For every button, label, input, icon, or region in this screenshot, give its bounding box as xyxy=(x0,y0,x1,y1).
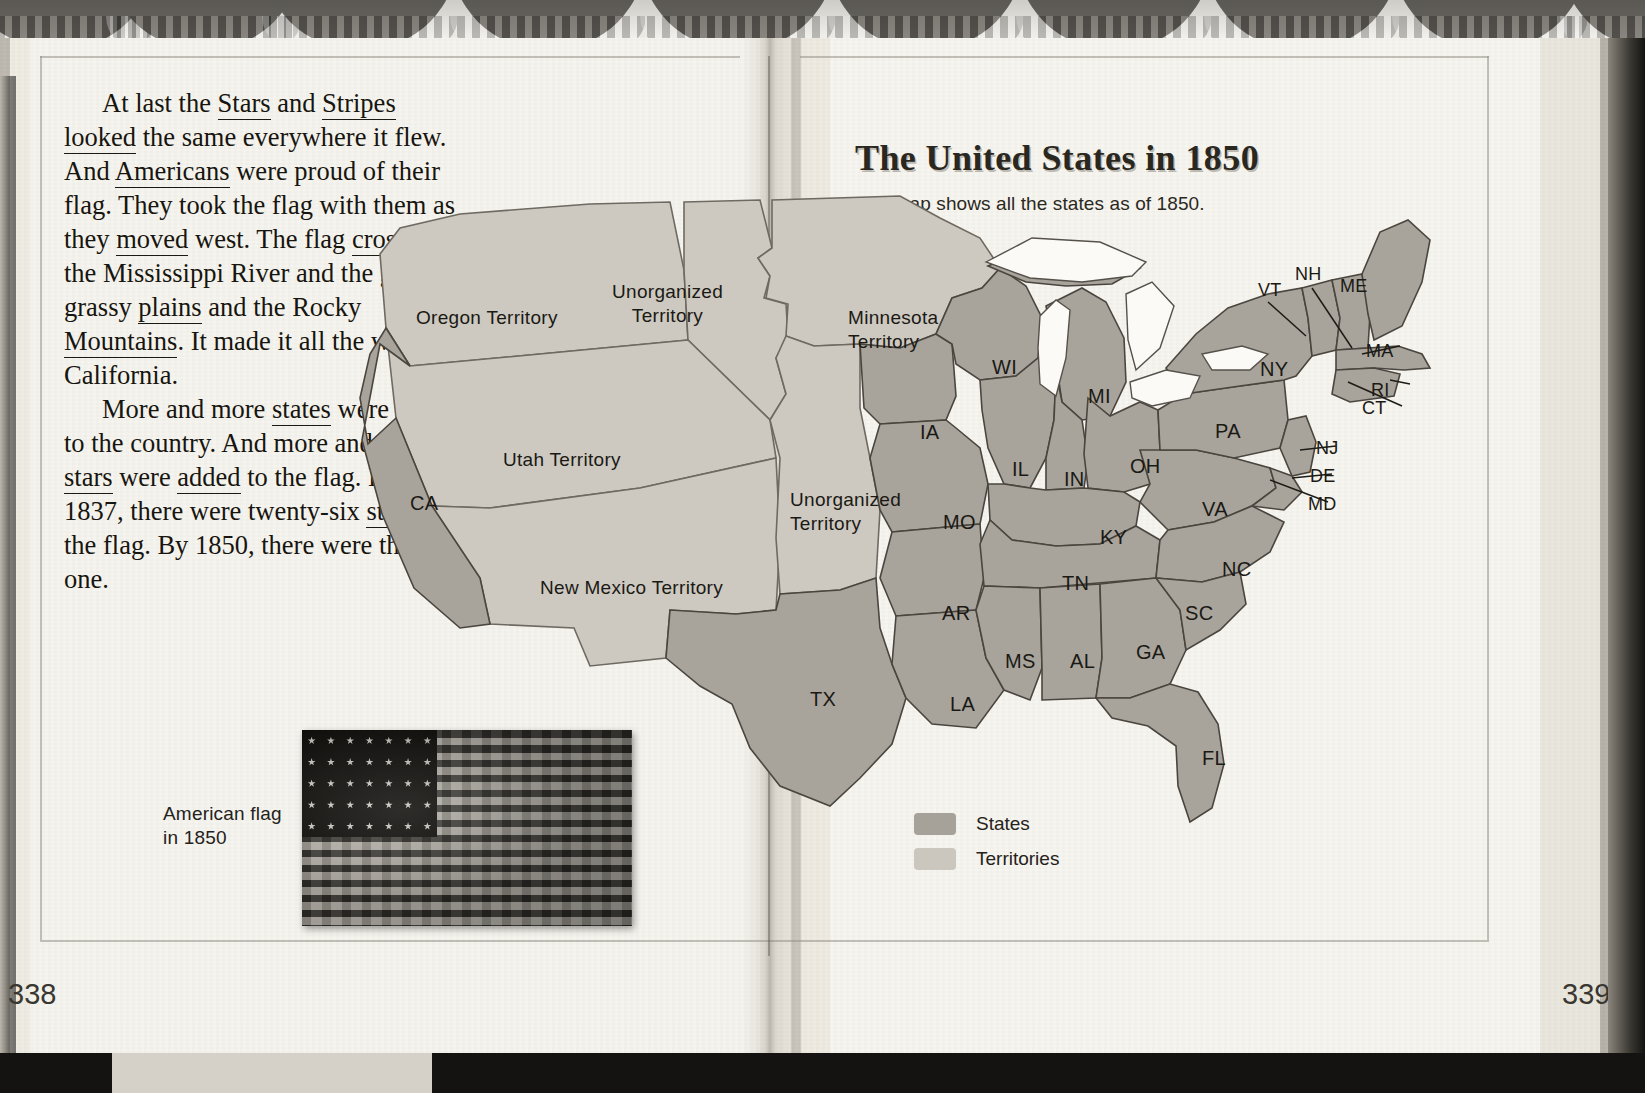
united-states-1850-map: Oregon Territory Unorganized Territory U… xyxy=(340,158,1460,898)
flag-caption-line-2: in 1850 xyxy=(163,826,303,850)
map-label-fl: FL xyxy=(1202,747,1226,770)
map-label-text: Utah Territory xyxy=(503,449,621,470)
shape-lake-huron xyxy=(1126,282,1174,370)
map-label-mi: MI xyxy=(1088,385,1111,408)
map-label-tx: TX xyxy=(810,688,836,711)
map-label-in: IN xyxy=(1064,468,1085,491)
map-label-ct: CT xyxy=(1362,398,1387,419)
shape-state-al xyxy=(1040,584,1102,700)
page-number-left: 338 xyxy=(8,978,56,1011)
map-label-sc: SC xyxy=(1185,602,1213,625)
map-label-al: AL xyxy=(1070,650,1095,673)
legend-item-territories: Territories xyxy=(914,846,1059,872)
map-label-tn: TN xyxy=(1062,572,1089,595)
map-label-new-mexico-territory: New Mexico Territory xyxy=(540,576,723,600)
map-label-ia: IA xyxy=(920,421,940,444)
legend-label-territories: Territories xyxy=(976,848,1059,870)
map-label-text: Territory xyxy=(790,512,901,536)
book-spread: At last the Stars and Stripes looked the… xyxy=(0,38,1645,1053)
map-label-il: IL xyxy=(1012,458,1029,481)
legend-swatch-territories xyxy=(914,848,956,870)
map-label-text: Unorganized xyxy=(612,280,723,304)
map-label-la: LA xyxy=(950,693,975,716)
right-page-edge-shadow xyxy=(1608,38,1645,1053)
map-label-vt: VT xyxy=(1258,280,1282,301)
map-label-utah-territory: Utah Territory xyxy=(503,448,621,472)
map-label-ms: MS xyxy=(1005,650,1036,673)
legend-label-states: States xyxy=(976,813,1030,835)
page-border-rule-top-right xyxy=(800,56,1489,58)
map-label-oregon-territory: Oregon Territory xyxy=(416,306,558,330)
map-label-md: MD xyxy=(1308,494,1337,515)
flag-photo-caption: American flag in 1850 xyxy=(163,802,303,850)
legend-swatch-states xyxy=(914,813,956,835)
map-label-ky: KY xyxy=(1100,526,1127,549)
shape-state-ri-ct xyxy=(1332,368,1400,402)
map-label-ar: AR xyxy=(942,602,970,625)
map-label-text: Territory xyxy=(612,304,723,328)
map-label-unorganized-territory-south: Unorganized Territory xyxy=(790,488,901,536)
map-label-mo: MO xyxy=(943,511,976,534)
map-label-text: Unorganized xyxy=(790,488,901,512)
flag-caption-line-1: American flag xyxy=(163,802,303,826)
screenshot-stage: At last the Stars and Stripes looked the… xyxy=(0,0,1645,1093)
map-label-minnesota-territory: Minnesota Territory xyxy=(848,306,938,354)
map-label-me: ME xyxy=(1340,276,1368,297)
map-label-ca: CA xyxy=(410,492,438,515)
map-label-wi: WI xyxy=(992,356,1017,379)
map-label-ma: MA xyxy=(1366,341,1394,362)
map-legend: States Territories xyxy=(914,811,1059,881)
map-label-oh: OH xyxy=(1130,455,1161,478)
bottom-page-tab xyxy=(112,1053,432,1093)
page-border-rule-top-left xyxy=(40,56,740,58)
map-label-nj: NJ xyxy=(1316,438,1339,459)
map-label-nh: NH xyxy=(1295,264,1322,285)
map-label-ga: GA xyxy=(1136,641,1166,664)
shape-state-me xyxy=(1362,220,1430,340)
shape-state-tx xyxy=(666,578,906,806)
map-label-text: New Mexico Territory xyxy=(540,577,723,598)
left-page-edge-shadow xyxy=(0,76,16,1091)
map-label-text: Territory xyxy=(848,330,938,354)
page-number-right: 339 xyxy=(1562,978,1610,1011)
map-label-nc: NC xyxy=(1222,558,1252,581)
map-label-text: Oregon Territory xyxy=(416,307,558,328)
legend-item-states: States xyxy=(914,811,1059,837)
map-label-text: Minnesota xyxy=(848,306,938,330)
map-label-ny: NY xyxy=(1260,358,1288,381)
map-label-unorganized-territory-north: Unorganized Territory xyxy=(612,280,723,328)
map-label-va: VA xyxy=(1202,498,1228,521)
map-label-pa: PA xyxy=(1215,420,1241,443)
map-label-de: DE xyxy=(1310,466,1336,487)
